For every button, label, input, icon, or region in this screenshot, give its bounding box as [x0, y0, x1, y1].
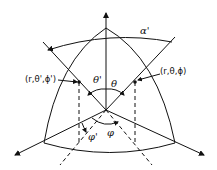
spherical-coordinate-diagram: α' (r,θ',ϕ') (r,θ,ϕ) θ' θ φ' φ: [0, 0, 217, 170]
point-marker: [133, 80, 137, 84]
label-theta: θ: [111, 78, 117, 89]
pointer-arrow-right: [138, 74, 160, 80]
label-alpha-primed: α': [140, 25, 150, 36]
phi-arc: [92, 118, 118, 124]
rotation-arc-alpha: [48, 38, 172, 51]
projection-dashed-left-diagonal: [60, 110, 106, 165]
point-primed-marker: [77, 80, 81, 84]
pointer-arrow-left: [58, 80, 77, 82]
label-phi: φ: [107, 127, 114, 138]
label-point-primed: (r,θ',ϕ'): [25, 74, 56, 84]
label-point: (r,θ,ϕ): [160, 66, 186, 76]
label-phi-primed: φ': [88, 131, 98, 142]
phi-primed-arc: [82, 123, 86, 132]
label-theta-primed: θ': [93, 74, 102, 85]
base-arc: [44, 143, 175, 153]
